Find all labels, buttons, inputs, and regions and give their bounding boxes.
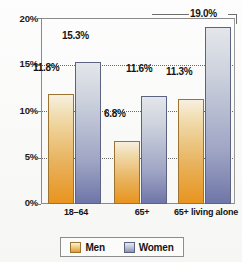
y-axis-tick-label: 0% <box>2 197 38 208</box>
legend-item-women[interactable]: Women <box>124 242 174 253</box>
legend-label-men: Men <box>85 242 104 253</box>
value-label-women-65plus-living-alone: 19.0% <box>190 8 217 19</box>
y-axis-tick-label: 5% <box>2 151 38 162</box>
legend-swatch-men-icon <box>70 242 81 253</box>
legend-label-women: Women <box>139 242 174 253</box>
value-label-women-18-64: 15.3% <box>62 30 89 41</box>
callout-leader-line-left <box>152 14 189 15</box>
bar-women-65plus <box>141 96 167 204</box>
bar-women-65plus-living-alone <box>205 27 231 204</box>
bar-group-65plus-living-alone <box>178 18 234 204</box>
chart-legend: Men Women <box>60 237 184 257</box>
y-axis-tick-label: 10% <box>2 105 38 116</box>
category-label-65plus: 65+ <box>114 207 170 217</box>
callout-leader-line-down <box>236 14 237 24</box>
value-label-men-18-64: 11.8% <box>33 62 59 73</box>
y-axis-tick-mark <box>36 204 41 205</box>
bar-men-65plus <box>114 141 140 204</box>
legend-item-men[interactable]: Men <box>70 242 104 253</box>
legend-swatch-women-icon <box>124 242 135 253</box>
category-label-65plus-living-alone: 65+ living alone <box>170 207 242 217</box>
value-label-men-65plus: 6.8% <box>104 108 126 119</box>
bar-group-18-64 <box>48 18 104 204</box>
bar-chart: 20% 15% 10% 5% 0% 11.8% 15.3% 18–64 6.8%… <box>0 0 242 262</box>
value-label-women-65plus: 11.6% <box>126 63 152 74</box>
bar-men-18-64 <box>48 94 74 204</box>
category-label-18-64: 18–64 <box>48 207 104 217</box>
y-axis-tick-label: 20% <box>2 13 38 24</box>
value-label-men-65plus-living-alone: 11.3% <box>166 66 192 77</box>
bar-men-65plus-living-alone <box>178 99 204 204</box>
bar-women-18-64 <box>75 62 101 204</box>
